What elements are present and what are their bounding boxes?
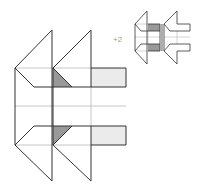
small-figure-option-2: [162, 11, 190, 64]
small-figure-option-1: [135, 11, 160, 64]
light-box-top: [91, 68, 126, 87]
main-figure: [0, 0, 200, 190]
light-box-bottom: [91, 126, 126, 145]
